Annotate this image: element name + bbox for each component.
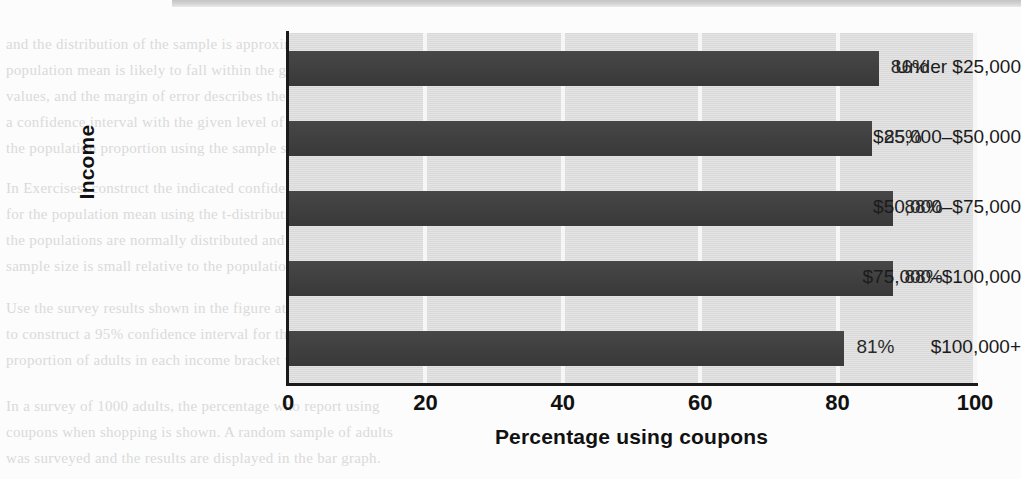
y-axis-title: Income	[75, 97, 99, 227]
x-tick-label: 60	[660, 390, 740, 416]
y-tick-label: Under $25,000	[743, 56, 1021, 78]
x-tick-label: 80	[798, 390, 878, 416]
y-tick-label: $75,000–$100,000	[743, 266, 1021, 288]
y-tick-label: $50,000–$75,000	[743, 196, 1021, 218]
x-tick-label: 40	[523, 390, 603, 416]
bar-value-label: 88%	[905, 196, 943, 218]
x-tick-label: 100	[935, 390, 1015, 416]
x-tick-label: 0	[248, 390, 328, 416]
bar-value-label: 88%	[905, 266, 943, 288]
bar-value-label: 86%	[891, 56, 929, 78]
y-tick-label: $25,000–$50,000	[743, 126, 1021, 148]
y-axis-line	[286, 31, 289, 385]
x-tick-label: 20	[385, 390, 465, 416]
x-axis-title: Percentage using coupons	[288, 425, 975, 449]
scanned-page: and the distribution of the sample is ap…	[0, 0, 1021, 479]
bar-chart: Under $25,000$25,000–$50,000$50,000–$75,…	[0, 0, 1021, 479]
bar-value-label: 85%	[884, 126, 922, 148]
x-axis-line	[286, 383, 978, 386]
bar-value-label: 81%	[856, 336, 894, 358]
